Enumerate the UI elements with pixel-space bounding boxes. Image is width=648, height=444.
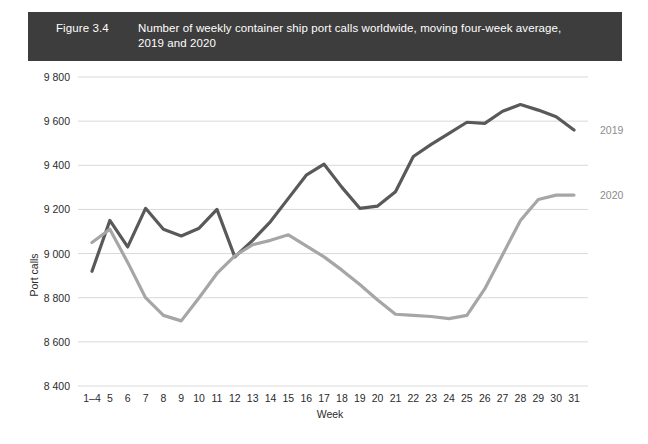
y-axis-title: Port calls xyxy=(28,253,40,296)
x-axis-tick-label: 15 xyxy=(283,392,295,404)
x-axis-tick-label: 30 xyxy=(550,392,562,404)
x-axis-tick-label: 11 xyxy=(212,392,223,404)
x-axis-tick-label: 21 xyxy=(390,392,402,404)
line-chart-svg: 9 8009 6009 4009 2009 0008 8008 6008 400… xyxy=(0,0,648,444)
x-axis-tick-label: 20 xyxy=(372,392,384,404)
x-axis-tick-label: 27 xyxy=(497,392,509,404)
series-line-2020 xyxy=(92,195,574,321)
x-axis-tick-label: 7 xyxy=(143,392,149,404)
x-axis-tick-label: 28 xyxy=(515,392,527,404)
legend-label-2019: 2019 xyxy=(600,124,624,136)
x-axis-tick-label: 26 xyxy=(479,392,491,404)
x-axis-tick-label: 23 xyxy=(425,392,437,404)
y-axis-tick-label: 8 800 xyxy=(44,292,70,304)
y-axis-tick-label: 9 200 xyxy=(44,203,70,215)
x-axis-tick-label: 16 xyxy=(300,392,312,404)
x-axis-tick-label: 22 xyxy=(407,392,419,404)
legend-label-2020: 2020 xyxy=(600,189,624,201)
figure-container: Figure 3.4 Number of weekly container sh… xyxy=(0,0,648,444)
y-axis-tick-label: 8 400 xyxy=(44,380,70,392)
x-axis-tick-label: 1–4 xyxy=(83,392,101,404)
chart-legend: 20192020 xyxy=(600,124,624,201)
y-axis-tick-label: 8 600 xyxy=(44,336,70,348)
x-axis-title: Week xyxy=(317,408,344,420)
y-axis-tick-label: 9 400 xyxy=(44,159,70,171)
y-axis-tick-label: 9 600 xyxy=(44,115,70,127)
x-axis-tick-label: 6 xyxy=(125,392,131,404)
x-axis-tick-label: 8 xyxy=(160,392,166,404)
x-axis-tick-label: 14 xyxy=(265,392,277,404)
x-axis-tick-label: 19 xyxy=(354,392,366,404)
y-axis-tick-labels: 9 8009 6009 4009 2009 0008 8008 6008 400 xyxy=(44,71,70,392)
x-axis-tick-label: 31 xyxy=(568,392,580,404)
gridlines xyxy=(78,77,588,386)
x-axis-tick-label: 13 xyxy=(247,392,259,404)
x-axis-tick-label: 17 xyxy=(318,392,330,404)
x-axis-tick-label: 12 xyxy=(229,392,241,404)
x-axis-tick-label: 29 xyxy=(532,392,544,404)
x-axis-tick-label: 25 xyxy=(461,392,473,404)
x-axis-tick-labels: 1–45678910111213141516171819202122232425… xyxy=(83,392,580,404)
chart-area: 9 8009 6009 4009 2009 0008 8008 6008 400… xyxy=(0,0,648,444)
series-line-2019 xyxy=(92,105,574,272)
x-axis-tick-label: 5 xyxy=(107,392,113,404)
y-axis-tick-label: 9 000 xyxy=(44,248,70,260)
x-axis-tick-label: 9 xyxy=(178,392,184,404)
x-axis-tick-label: 10 xyxy=(193,392,205,404)
y-axis-tick-label: 9 800 xyxy=(44,71,70,83)
data-series-lines xyxy=(92,105,574,321)
x-axis-tick-label: 24 xyxy=(443,392,455,404)
x-axis-tick-label: 18 xyxy=(336,392,348,404)
